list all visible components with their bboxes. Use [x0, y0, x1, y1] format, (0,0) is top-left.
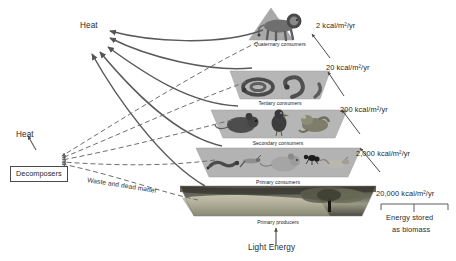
label-energy-stored: Energy stored — [386, 214, 433, 223]
label-waste-and-dead-matter: Waste and dead matter — [87, 176, 158, 194]
tier-quaternary-consumers — [243, 8, 317, 40]
tier-label-quaternary-consumers: Quaternary consumers — [228, 41, 332, 47]
energy-value-secondary: 200 kcal/m²/yr — [340, 106, 388, 115]
tier-primary-consumers — [196, 148, 361, 177]
decomposers-box: Decomposers — [10, 166, 68, 182]
label-light-energy: Light Energy — [248, 243, 295, 252]
energy-value-tertiary: 20 kcal/m²/yr — [326, 64, 370, 73]
tier-label-primary-consumers: Primary consumers — [218, 179, 338, 185]
label-heat-top: Heat — [80, 21, 98, 30]
energy-value-primary-producers: 20,000 kcal/m²/yr — [376, 190, 434, 199]
tier-label-tertiary-consumers: Tertiary consumers — [220, 100, 340, 106]
label-heat-left: Heat — [16, 130, 34, 139]
energy-value-quaternary: 2 kcal/m²/yr — [316, 22, 355, 31]
biomass-bracket — [381, 204, 448, 212]
label-as-biomass: as biomass — [392, 226, 430, 235]
tier-primary-producers — [180, 186, 376, 216]
tier-tertiary-consumers — [230, 71, 330, 99]
tier-secondary-consumers — [211, 110, 347, 138]
energy-pyramid-diagram: Primary producers — [0, 0, 456, 261]
energy-value-primary-consumers: 2,000 kcal/m²/yr — [356, 150, 410, 159]
tier-label-primary-producers: Primary producers — [218, 219, 338, 225]
tier-label-secondary-consumers: Secondary consumers — [218, 140, 338, 146]
